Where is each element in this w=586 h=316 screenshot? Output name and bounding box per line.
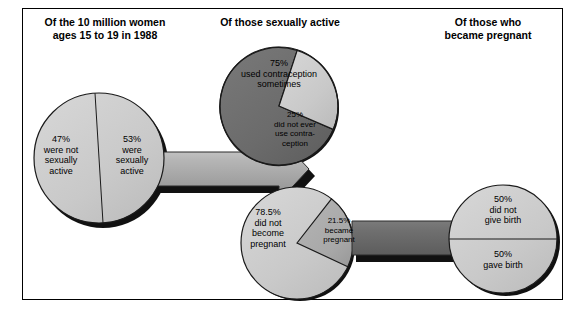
header-column-3: Of those who became pregnant: [418, 16, 558, 41]
infographic-figure: Of the 10 million women ages 15 to 19 in…: [0, 0, 586, 316]
pie2-slice-label-used-contraception: 75% used contraception sometimes: [212, 58, 346, 90]
pie1-slice-label-not-sexually-active: 47% were not sexually active: [30, 134, 92, 176]
header-column-2: Of those sexually active: [196, 16, 364, 29]
pie4-slice-label-did-not-give-birth: 50% did not give birth: [460, 194, 546, 226]
pie1-slice-label-sexually-active: 53% were sexually active: [102, 134, 162, 176]
header-column-1: Of the 10 million women ages 15 to 19 in…: [30, 16, 180, 41]
pie4-slice-label-gave-birth: 50% gave birth: [458, 249, 548, 270]
pie3-slice-label-became-pregnant: 21.5% became pregnant: [310, 216, 368, 245]
pie3-slice-label-not-pregnant: 78.5% did not become pregnant: [232, 207, 304, 249]
pie2-slice-label-no-contraception: 25% did not ever use contra- ception: [262, 110, 328, 148]
